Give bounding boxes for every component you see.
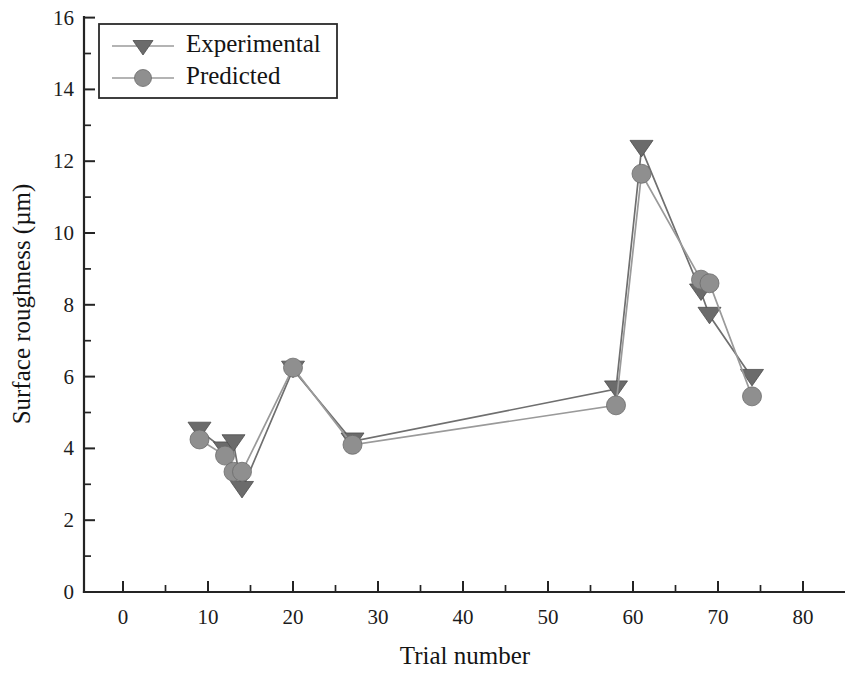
data-point-experimental xyxy=(698,307,721,324)
surface-roughness-line-chart: 0246810121416 01020304050607080 Surface … xyxy=(0,0,845,679)
legend-label-predicted: Predicted xyxy=(186,62,281,89)
y-tick-label: 6 xyxy=(64,365,75,389)
x-axis-tick-labels: 01020304050607080 xyxy=(118,605,814,629)
x-tick-label: 10 xyxy=(198,605,219,629)
data-point-predicted xyxy=(233,462,252,481)
data-point-experimental xyxy=(605,381,628,398)
x-tick-label: 50 xyxy=(538,605,559,629)
y-tick-label: 14 xyxy=(53,77,75,101)
y-axis-tick-labels: 0246810121416 xyxy=(53,6,75,604)
series-experimental xyxy=(188,140,764,498)
y-tick-label: 0 xyxy=(64,580,75,604)
legend-label-experimental: Experimental xyxy=(186,30,321,57)
y-tick-label: 8 xyxy=(64,293,75,317)
x-tick-label: 30 xyxy=(368,605,389,629)
x-tick-label: 80 xyxy=(793,605,814,629)
y-tick-label: 10 xyxy=(53,221,74,245)
y-tick-label: 2 xyxy=(64,508,75,532)
data-point-experimental xyxy=(630,140,653,157)
data-point-predicted xyxy=(607,396,626,415)
legend-marker-circle-icon xyxy=(135,70,152,87)
x-tick-label: 20 xyxy=(283,605,304,629)
axes-group xyxy=(84,17,845,592)
chart-container: 0246810121416 01020304050607080 Surface … xyxy=(0,0,845,679)
y-axis-ticks xyxy=(84,18,95,592)
y-axis-title: Surface roughness (µm) xyxy=(8,184,36,425)
x-tick-label: 40 xyxy=(453,605,474,629)
data-point-predicted xyxy=(743,387,762,406)
data-point-predicted xyxy=(190,430,209,449)
data-point-predicted xyxy=(343,435,362,454)
y-tick-label: 4 xyxy=(64,436,75,460)
data-point-experimental xyxy=(741,369,764,386)
data-series-group xyxy=(188,140,764,498)
data-point-predicted xyxy=(632,164,651,183)
series-line-predicted xyxy=(200,174,753,472)
series-predicted xyxy=(190,164,762,481)
data-point-predicted xyxy=(284,358,303,377)
data-point-experimental xyxy=(231,481,254,498)
x-tick-label: 60 xyxy=(623,605,644,629)
x-axis-title: Trial number xyxy=(400,642,531,669)
series-line-experimental xyxy=(200,149,753,490)
y-tick-label: 12 xyxy=(53,149,74,173)
data-point-predicted xyxy=(700,274,719,293)
x-tick-label: 70 xyxy=(708,605,729,629)
chart-legend: Experimental Predicted xyxy=(99,24,337,98)
x-tick-label: 0 xyxy=(118,605,129,629)
y-tick-label: 16 xyxy=(53,6,74,30)
x-axis-ticks xyxy=(123,581,803,592)
